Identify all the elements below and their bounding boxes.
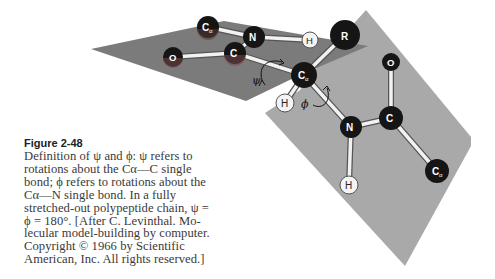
caption-line: Definition of ψ and ϕ: ψ refers to [24, 150, 274, 163]
figure-caption: Figure 2-48 Definition of ψ and ϕ: ψ ref… [24, 137, 274, 266]
atom-h-1: H [302, 32, 318, 48]
svg-text:O: O [169, 52, 176, 63]
atom-r: R [330, 20, 360, 50]
svg-text:N: N [346, 122, 353, 133]
phi-label: ϕ [301, 98, 309, 111]
atom-n-1: N [243, 26, 265, 48]
atom-h-2: H [276, 94, 294, 112]
psi-label: ψ [252, 74, 261, 87]
svg-text:O: O [387, 57, 394, 68]
svg-text:H: H [345, 180, 352, 191]
atom-o-2: O [382, 53, 400, 71]
atom-n-2: N [340, 116, 362, 138]
atom-c-alpha-3: C α [425, 159, 449, 183]
svg-text:R: R [341, 31, 349, 42]
svg-text:C: C [230, 48, 237, 59]
caption-line: Cα—N single bond. In a fully [24, 189, 274, 202]
atom-h-3: H [340, 176, 358, 194]
svg-text:α: α [439, 172, 443, 178]
svg-text:H: H [306, 35, 313, 46]
caption-line: bond; ϕ refers to rotations about the [24, 176, 274, 189]
atom-o-1: O [163, 47, 183, 68]
svg-text:α: α [305, 76, 309, 82]
caption-line: rotations about the Cα—C single [24, 163, 274, 176]
caption-text: Definition of ψ and ϕ: ψ refers to rotat… [24, 150, 274, 266]
svg-text:C: C [386, 113, 393, 124]
svg-text:N: N [249, 32, 256, 43]
atom-c-alpha-1: C α [197, 16, 219, 40]
atom-c-alpha-2: C α [291, 62, 317, 88]
caption-line: American, Inc. All rights reserved.] [24, 253, 274, 266]
caption-line: stretched-out polypeptide chain, ψ = [24, 202, 274, 215]
svg-text:α: α [209, 28, 213, 34]
svg-text:H: H [281, 98, 288, 109]
atom-c-2: C [379, 106, 403, 130]
atom-c-1: C [224, 42, 246, 66]
